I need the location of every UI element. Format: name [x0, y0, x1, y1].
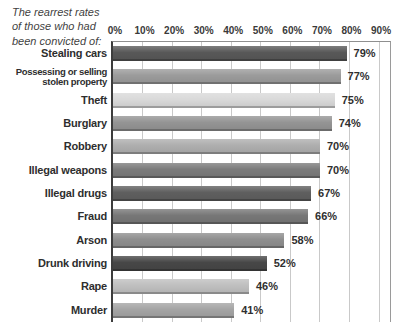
- bar: [113, 163, 320, 178]
- bar: [113, 256, 267, 271]
- bar: [113, 93, 335, 108]
- x-axis-tick: 30%: [194, 25, 214, 36]
- bar: [113, 116, 332, 131]
- value-label: 46%: [256, 279, 278, 294]
- x-axis-tick: 10%: [135, 25, 155, 36]
- x-axis-tick: 80%: [341, 25, 361, 36]
- x-axis: 0%10%20%30%40%50%60%70%80%90%: [113, 25, 391, 38]
- category-labels: Stealing carsPossessing or selling stole…: [0, 42, 112, 322]
- value-label: 58%: [291, 233, 313, 248]
- category-label: Illegal drugs: [0, 182, 112, 205]
- bar-row: 52%: [113, 252, 390, 275]
- bar: [113, 303, 234, 318]
- category-label: Illegal weapons: [0, 159, 112, 182]
- category-label: Murder: [0, 299, 112, 322]
- category-label: Robbery: [0, 135, 112, 158]
- bar-row: 46%: [113, 275, 390, 298]
- x-axis-tick: 60%: [282, 25, 302, 36]
- category-label: Burglary: [0, 112, 112, 135]
- x-axis-tick: 50%: [253, 25, 273, 36]
- plot-area: 79%77%75%74%70%70%67%66%58%52%46%41%: [111, 41, 391, 322]
- value-label: 70%: [327, 139, 349, 154]
- x-axis-tick: 0%: [108, 25, 122, 36]
- bar: [113, 69, 341, 84]
- bar-row: 77%: [113, 65, 390, 88]
- value-label: 79%: [354, 46, 376, 61]
- bar-row: 74%: [113, 112, 390, 135]
- value-label: 74%: [339, 116, 361, 131]
- bar-row: 67%: [113, 182, 390, 205]
- bar-row: 75%: [113, 89, 390, 112]
- bar-row: 66%: [113, 205, 390, 228]
- value-label: 77%: [348, 69, 370, 84]
- x-axis-tick: 40%: [223, 25, 243, 36]
- bar-row: 58%: [113, 229, 390, 252]
- bar-row: 79%: [113, 42, 390, 65]
- value-label: 75%: [342, 93, 364, 108]
- value-label: 70%: [327, 163, 349, 178]
- bar-row: 70%: [113, 159, 390, 182]
- category-label: Theft: [0, 89, 112, 112]
- bar: [113, 46, 347, 61]
- x-axis-tick: 90%: [371, 25, 391, 36]
- value-label: 41%: [241, 303, 263, 318]
- category-label: Possessing or selling stolen property: [0, 65, 112, 88]
- bar: [113, 233, 284, 248]
- bar: [113, 279, 249, 294]
- value-label: 67%: [318, 186, 340, 201]
- category-label: Drunk driving: [0, 252, 112, 275]
- bar-rows: 79%77%75%74%70%70%67%66%58%52%46%41%: [113, 42, 390, 322]
- bar-row: 41%: [113, 299, 390, 322]
- category-label: Fraud: [0, 205, 112, 228]
- category-label: Rape: [0, 275, 112, 298]
- x-axis-tick: 70%: [312, 25, 332, 36]
- category-label: Stealing cars: [0, 42, 112, 65]
- category-label: Arson: [0, 229, 112, 252]
- bar: [113, 209, 308, 224]
- value-label: 66%: [315, 209, 337, 224]
- bar-row: 70%: [113, 135, 390, 158]
- bar: [113, 186, 311, 201]
- bar: [113, 139, 320, 154]
- rearrest-rates-bar-chart: The rearrest rates of those who had been…: [0, 0, 399, 330]
- value-label: 52%: [274, 256, 296, 271]
- x-axis-tick: 20%: [164, 25, 184, 36]
